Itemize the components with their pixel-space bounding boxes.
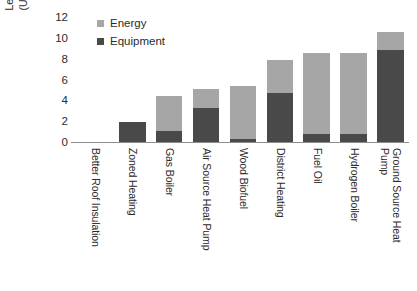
stacked-bar[interactable] (230, 86, 257, 143)
x-axis-label-slot: Gas Boiler (151, 148, 188, 288)
x-axis-tick-label: Fuel Oil (311, 148, 323, 284)
x-axis-label-slot: Hydrogen Boiler (335, 148, 372, 288)
y-axis-tick-label: 2 (46, 116, 68, 128)
x-axis-label-slot: Zoned Heating (114, 148, 151, 288)
legend-item-equipment: Equipment (97, 36, 165, 48)
bar-slot[interactable] (298, 18, 335, 143)
bar-segment-equipment[interactable] (193, 108, 220, 143)
bar-slot[interactable] (225, 18, 262, 143)
x-axis-tick-label: Zoned Heating (127, 148, 139, 284)
x-axis-label-slot: Wood Biofuel (225, 148, 262, 288)
stacked-bar[interactable] (340, 53, 367, 143)
bar-segment-equipment[interactable] (377, 50, 404, 143)
bar-segment-energy[interactable] (156, 96, 183, 131)
x-axis-tick-label: Air Source Heat Pump (200, 148, 212, 284)
y-axis-tick-label: 0 (46, 137, 68, 149)
legend-label-energy: Energy (110, 18, 146, 30)
x-axis-tick-label: Hydrogen Boiler (348, 148, 360, 284)
y-axis-tick-labels: 121086420 (42, 0, 68, 160)
x-axis-tick-label: Wood Biofuel (237, 148, 249, 284)
bar-slot[interactable] (261, 18, 298, 143)
stacked-bar[interactable] (193, 89, 220, 143)
stacked-bar[interactable] (303, 53, 330, 143)
legend-swatch-equipment (97, 38, 104, 45)
x-axis-label-slot: Fuel Oil (298, 148, 335, 288)
x-axis-label-slot: Better Roof Insulation (77, 148, 114, 288)
bar-segment-energy[interactable] (303, 53, 330, 133)
y-axis-tick-label: 6 (46, 75, 68, 87)
zero-baseline (71, 142, 409, 144)
bar-slot[interactable] (372, 18, 409, 143)
y-axis-tick-label: 10 (46, 33, 68, 45)
x-axis-label-slot: District Heating (261, 148, 298, 288)
stacked-bar[interactable] (377, 32, 404, 143)
stacked-bar[interactable] (156, 96, 183, 143)
legend-swatch-energy (97, 20, 104, 27)
x-axis-tick-label: Ground Source Heat Pump (379, 148, 402, 284)
stacked-bar[interactable] (119, 122, 146, 143)
legend-item-energy: Energy (97, 18, 165, 30)
y-axis-tick-label: 8 (46, 54, 68, 66)
bar-segment-equipment[interactable] (267, 93, 294, 143)
chart-legend: Energy Equipment (97, 18, 165, 47)
y-axis-tick-label: 12 (46, 12, 68, 24)
x-axis-label-slot: Air Source Heat Pump (188, 148, 225, 288)
stacked-bar-chart: Levelised Cost of Heating (USD cent per … (0, 0, 417, 291)
y-axis-title-line-1: Levelised Cost of Heating (4, 0, 15, 11)
x-axis-tick-label: Gas Boiler (163, 148, 175, 284)
x-axis-label-slot: Ground Source Heat Pump (372, 148, 409, 288)
y-axis-title: Levelised Cost of Heating (USD cent per … (0, 0, 42, 160)
x-axis-tick-label: District Heating (274, 148, 286, 284)
bar-segment-energy[interactable] (230, 86, 257, 140)
x-axis-tick-label: Better Roof Insulation (90, 148, 102, 284)
y-axis-tick-label: 4 (46, 95, 68, 107)
bar-slot[interactable] (188, 18, 225, 143)
y-axis-title-line-2: (USD cent per kWh of heat) (18, 0, 29, 11)
stacked-bar[interactable] (267, 60, 294, 143)
bar-segment-equipment[interactable] (119, 122, 146, 143)
bar-segment-energy[interactable] (377, 32, 404, 51)
legend-label-equipment: Equipment (110, 36, 165, 48)
bar-segment-energy[interactable] (267, 60, 294, 93)
x-axis-tick-labels: Better Roof InsulationZoned HeatingGas B… (77, 148, 409, 288)
bar-segment-energy[interactable] (193, 89, 220, 108)
bar-slot[interactable] (335, 18, 372, 143)
bar-segment-energy[interactable] (340, 53, 367, 133)
